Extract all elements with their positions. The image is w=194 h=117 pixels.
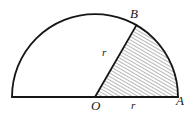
radius-label-oa: r	[131, 100, 135, 111]
shaded-sector-region	[95, 25, 178, 97]
point-label-b: B	[130, 7, 138, 20]
point-label-o: O	[91, 99, 100, 112]
point-label-a: A	[176, 94, 184, 107]
geometry-figure: B O A r r	[0, 0, 194, 117]
radius-label-ob: r	[102, 47, 106, 58]
